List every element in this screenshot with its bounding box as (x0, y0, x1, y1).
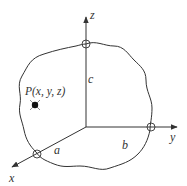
b-intercept-label: b (122, 138, 128, 152)
point-p-label: P(x, y, z) (24, 85, 65, 98)
x-axis (12, 127, 86, 167)
c-intercept-label: c (88, 72, 94, 86)
point-p-marker (30, 100, 40, 110)
a-intercept-label: a (54, 143, 60, 157)
z-axis-label: z (89, 8, 95, 22)
x-axis-label: x (8, 171, 15, 185)
y-axis-label: y (169, 130, 176, 144)
ellipsoid-diagram: z y x c a b P(x, y, z) (0, 0, 187, 186)
